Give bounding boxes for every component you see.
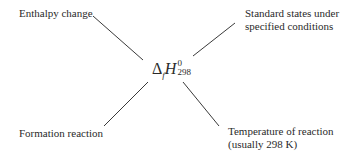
label-enthalpy-change: Enthalpy change	[19, 7, 93, 20]
label-text-line1: Temperature of reaction	[228, 125, 334, 138]
label-text-line2: (usually 298 K)	[228, 138, 334, 151]
label-text: Enthalpy change	[19, 7, 93, 19]
line-temperature	[183, 82, 219, 126]
label-text-line1: Standard states under	[245, 7, 339, 20]
label-standard-states: Standard states under specified conditio…	[245, 7, 339, 33]
label-temperature: Temperature of reaction (usually 298 K)	[228, 125, 334, 151]
delta-symbol: Δ	[152, 60, 162, 77]
line-formation-reaction	[104, 82, 148, 126]
temperature-subscript: 298	[177, 68, 191, 77]
sup-sub-stack: 0298	[177, 59, 191, 77]
label-text: Formation reaction	[19, 127, 103, 139]
line-standard-states	[193, 23, 235, 56]
label-text-line2: specified conditions	[245, 20, 339, 33]
enthalpy-symbol: H	[165, 60, 177, 77]
line-enthalpy-change	[93, 16, 143, 60]
formation-subscript: f	[162, 70, 165, 80]
enthalpy-formula: ΔfH0298	[152, 60, 191, 79]
label-formation-reaction: Formation reaction	[19, 127, 103, 140]
